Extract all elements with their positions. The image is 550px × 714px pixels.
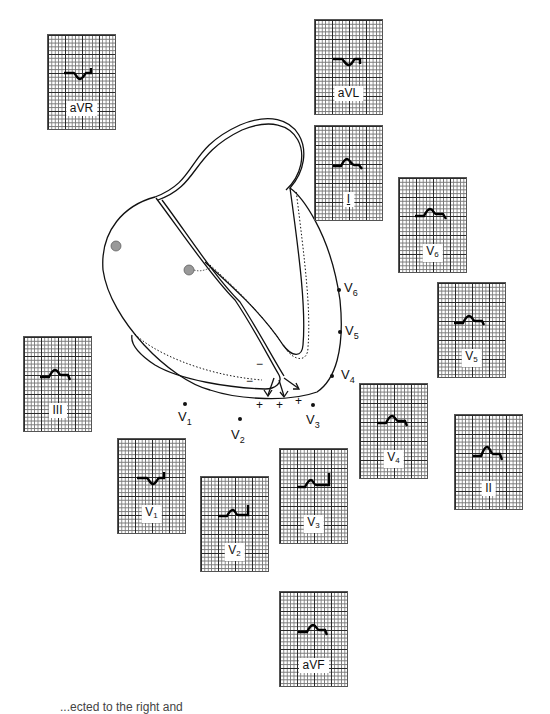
ecg-strip-v5: V5 [437,282,506,378]
ecg-strip-v2: V2 [200,476,269,572]
waveform-negative-qr [315,20,384,116]
lead-label: II [481,481,496,496]
av-node [184,265,194,275]
waveform-small-r-s [315,126,384,222]
lead-label: aVF [298,658,328,673]
lead-label: V6 [422,244,442,262]
ecg-strip-v6: V6 [398,177,467,273]
waveform-negative-qr [48,35,117,131]
minus-sign: − [256,357,263,371]
ecg-strip-avf: aVF [279,591,348,687]
electrode-dot [337,288,341,292]
electrode-label: V2 [231,428,245,447]
electrode-label: V5 [345,324,359,343]
waveform-small-r-s [280,592,349,688]
electrode-label: V3 [306,413,320,432]
lead-label: I [343,192,354,207]
lead-label: V1 [141,505,161,523]
ecg-strip-i: I [314,125,383,221]
ecg-strip-iii: III [23,336,92,432]
waveform-r-s [455,415,524,511]
lead-label: aVL [334,86,363,101]
plus-sign: + [295,394,302,408]
lead-label: V4 [383,450,403,468]
lead-label: III [48,403,66,418]
electrode-label: V6 [344,281,358,300]
plus-sign: + [276,398,283,412]
lv-cavity [205,188,304,354]
electrode-dot [338,330,342,334]
electrode-dot [238,417,242,421]
ecg-strip-avl: aVL [314,19,383,115]
electrode-label: V1 [178,410,192,429]
waveform-small-r-s [24,337,93,433]
lead-label: V3 [303,515,323,533]
electrode-dot [330,374,334,378]
electrode-dot [311,403,315,407]
electrode-label: V4 [341,368,355,387]
plus-sign: + [256,398,263,412]
lead-label: V2 [224,543,244,561]
minus-sign: − [246,374,253,388]
sa-node [111,241,121,251]
ecg-strip-v3: V3 [279,448,348,544]
electrode-dot [183,402,187,406]
figure-caption: ...ected to the right and [60,700,550,714]
ecg-strip-v4: V4 [359,383,428,479]
ecg-strip-avr: aVR [47,34,116,130]
ecg-strip-ii: II [454,414,523,510]
ecg-strip-v1: V1 [117,438,186,534]
lead-label: V5 [461,349,481,367]
lead-label: aVR [66,101,97,116]
